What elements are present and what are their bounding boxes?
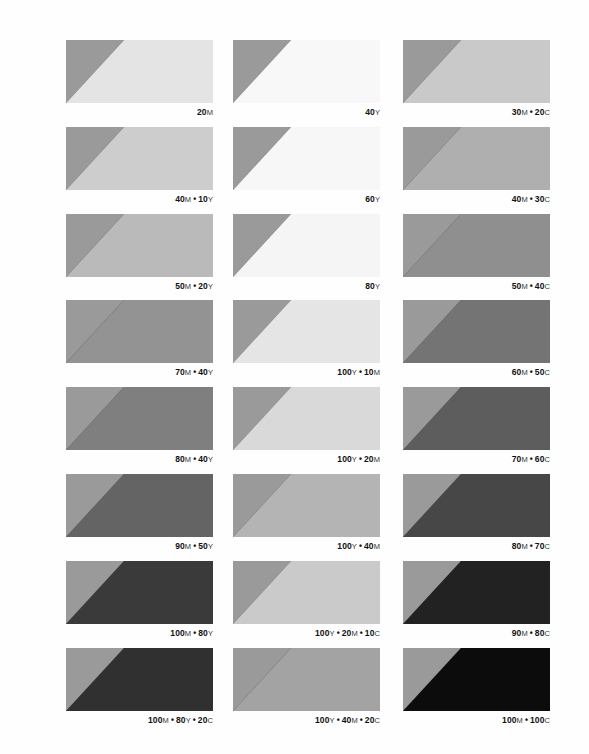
swatch-card: 40M•30C — [403, 127, 550, 207]
label-percentage: 100 — [502, 715, 516, 725]
color-swatch — [66, 300, 213, 363]
swatch-label: 80Y — [365, 281, 380, 291]
label-percentage: 100 — [337, 541, 351, 551]
swatch-graphic — [233, 387, 380, 450]
swatch-graphic — [403, 648, 550, 711]
swatch-card: 40Y — [233, 40, 380, 120]
label-separator: • — [528, 367, 535, 377]
swatch-graphic — [403, 127, 550, 190]
swatch-graphic — [403, 40, 550, 103]
swatch-label: 20M — [197, 107, 213, 117]
swatch-graphic — [233, 127, 380, 190]
swatch-card: 50M•40C — [403, 214, 550, 294]
swatch-label: 100M•100C — [502, 715, 550, 725]
label-percentage: 100 — [170, 628, 184, 638]
label-percentage: 40 — [364, 541, 374, 551]
label-ink-letter: M — [521, 542, 527, 551]
label-ink-letter: Y — [330, 629, 335, 638]
swatch-label: 100M•80Y•20C — [148, 715, 213, 725]
label-ink-letter: M — [207, 108, 213, 117]
color-swatch — [403, 40, 550, 103]
swatch-graphic — [233, 474, 380, 537]
label-percentage: 100 — [315, 628, 329, 638]
swatch-card: 100Y•10M — [233, 300, 380, 380]
color-swatch — [403, 387, 550, 450]
swatch-graphic — [66, 474, 213, 537]
label-ink-letter: M — [374, 542, 380, 551]
label-percentage: 70 — [512, 454, 522, 464]
color-swatch — [233, 474, 380, 537]
label-percentage: 70 — [175, 367, 185, 377]
label-percentage: 20 — [198, 281, 208, 291]
label-percentage: 30 — [512, 107, 522, 117]
label-ink-letter: C — [207, 716, 213, 725]
swatch-card: 20M — [66, 40, 213, 120]
swatch-label: 90M•80C — [512, 628, 550, 638]
swatch-label: 100Y•20M•10C — [315, 628, 380, 638]
swatch-graphic — [233, 40, 380, 103]
swatch-graphic — [66, 214, 213, 277]
label-separator: • — [528, 194, 535, 204]
label-ink-letter: C — [544, 368, 550, 377]
swatch-label: 50M•20Y — [175, 281, 213, 291]
swatch-label: 100Y•40M•20C — [315, 715, 380, 725]
label-ink-letter: M — [351, 716, 357, 725]
swatch-card: 80M•70C — [403, 474, 550, 554]
label-ink-letter: M — [374, 455, 380, 464]
color-swatch — [66, 561, 213, 624]
swatch-card: 70M•40Y — [66, 300, 213, 380]
swatch-card: 70M•60C — [403, 387, 550, 467]
label-ink-letter: M — [521, 629, 527, 638]
label-ink-letter: M — [521, 282, 527, 291]
label-ink-letter: M — [521, 368, 527, 377]
swatch-label: 70M•40Y — [175, 367, 213, 377]
swatch-label: 100Y•10M — [337, 367, 380, 377]
label-ink-letter: C — [544, 108, 550, 117]
label-ink-letter: C — [544, 542, 550, 551]
label-percentage: 100 — [315, 715, 329, 725]
swatch-graphic — [233, 214, 380, 277]
label-percentage: 80 — [176, 715, 186, 725]
swatch-label: 50M•40C — [512, 281, 550, 291]
swatch-graphic — [66, 40, 213, 103]
label-separator: • — [335, 715, 342, 725]
label-percentage: 80 — [175, 454, 185, 464]
swatch-card: 80Y — [233, 214, 380, 294]
color-swatch — [66, 474, 213, 537]
label-percentage: 40 — [512, 194, 522, 204]
label-ink-letter: Y — [208, 282, 213, 291]
color-swatch — [66, 40, 213, 103]
label-percentage: 20 — [364, 454, 374, 464]
swatch-graphic — [403, 474, 550, 537]
swatch-card: 100M•80Y — [66, 561, 213, 641]
color-swatch — [403, 214, 550, 277]
swatch-card: 50M•20Y — [66, 214, 213, 294]
label-ink-letter: Y — [208, 629, 213, 638]
swatch-label: 80M•70C — [512, 541, 550, 551]
color-swatch — [66, 214, 213, 277]
swatch-graphic — [233, 648, 380, 711]
swatch-card: 80M•40Y — [66, 387, 213, 467]
color-swatch — [233, 127, 380, 190]
color-swatch — [233, 561, 380, 624]
swatch-card: 100Y•40M•20C — [233, 648, 380, 728]
label-ink-letter: C — [544, 282, 550, 291]
swatch-card: 30M•20C — [403, 40, 550, 120]
label-percentage: 80 — [512, 541, 522, 551]
swatch-graphic — [403, 561, 550, 624]
label-percentage: 100 — [337, 454, 351, 464]
label-ink-letter: C — [544, 455, 550, 464]
swatch-card: 90M•80C — [403, 561, 550, 641]
label-ink-letter: Y — [375, 195, 380, 204]
label-percentage: 40 — [198, 367, 208, 377]
label-separator: • — [528, 454, 535, 464]
label-percentage: 100 — [530, 715, 544, 725]
label-percentage: 60 — [512, 367, 522, 377]
label-separator: • — [357, 454, 364, 464]
swatch-card: 100Y•40M — [233, 474, 380, 554]
label-ink-letter: M — [351, 629, 357, 638]
label-ink-letter: C — [544, 716, 550, 725]
label-ink-letter: Y — [208, 195, 213, 204]
swatch-label: 70M•60C — [512, 454, 550, 464]
label-separator: • — [528, 541, 535, 551]
